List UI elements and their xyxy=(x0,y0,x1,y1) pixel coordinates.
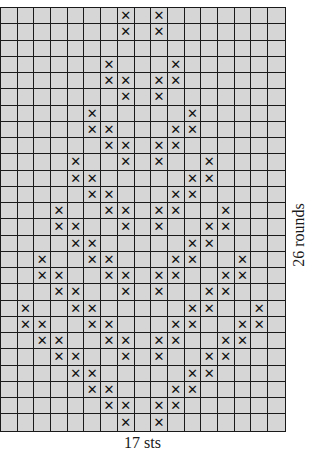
chart-cell xyxy=(18,171,35,187)
chart-cell xyxy=(151,301,168,317)
chart-cell xyxy=(168,301,185,317)
chart-cell: ✕ xyxy=(151,138,168,154)
x-stitch-icon: ✕ xyxy=(204,285,215,298)
chart-cell: ✕ xyxy=(201,284,218,300)
chart-cell xyxy=(218,24,235,40)
chart-cell: ✕ xyxy=(201,349,218,365)
x-stitch-icon: ✕ xyxy=(120,334,131,347)
x-stitch-icon: ✕ xyxy=(87,237,98,250)
chart-cell xyxy=(51,73,68,89)
x-stitch-icon: ✕ xyxy=(104,204,115,217)
chart-cell xyxy=(68,138,85,154)
chart-cell xyxy=(68,106,85,122)
x-stitch-icon: ✕ xyxy=(187,302,198,315)
chart-cell xyxy=(135,284,152,300)
chart-cell xyxy=(218,154,235,170)
chart-cell xyxy=(185,57,202,73)
chart-cell xyxy=(185,154,202,170)
chart-cell xyxy=(135,219,152,235)
x-stitch-icon: ✕ xyxy=(187,367,198,380)
chart-cell: ✕ xyxy=(34,252,51,268)
chart-cell xyxy=(101,24,118,40)
x-stitch-icon: ✕ xyxy=(20,318,31,331)
chart-cell xyxy=(151,236,168,252)
x-stitch-icon: ✕ xyxy=(170,383,181,396)
rounds-label-container: 26 rounds xyxy=(288,195,310,275)
x-stitch-icon: ✕ xyxy=(53,285,64,298)
chart-cell: ✕ xyxy=(185,317,202,333)
chart-cell xyxy=(235,106,252,122)
chart-cell xyxy=(118,366,135,382)
chart-cell: ✕ xyxy=(151,154,168,170)
x-stitch-icon: ✕ xyxy=(87,107,98,120)
chart-cell: ✕ xyxy=(101,333,118,349)
chart-cell xyxy=(1,268,18,284)
x-stitch-icon: ✕ xyxy=(170,204,181,217)
chart-cell xyxy=(268,138,285,154)
chart-cell xyxy=(51,187,68,203)
chart-cell xyxy=(185,398,202,414)
chart-cell xyxy=(135,317,152,333)
chart-cell xyxy=(218,236,235,252)
chart-cell xyxy=(68,382,85,398)
chart-cell xyxy=(185,219,202,235)
x-stitch-icon: ✕ xyxy=(104,269,115,282)
x-stitch-icon: ✕ xyxy=(104,399,115,412)
x-stitch-icon: ✕ xyxy=(204,155,215,168)
chart-cell xyxy=(34,349,51,365)
chart-cell xyxy=(101,366,118,382)
chart-cell xyxy=(68,252,85,268)
chart-cell xyxy=(151,171,168,187)
x-stitch-icon: ✕ xyxy=(170,334,181,347)
x-stitch-icon: ✕ xyxy=(237,253,248,266)
chart-cell xyxy=(18,382,35,398)
chart-cell: ✕ xyxy=(151,268,168,284)
stitch-chart-grid: ✕✕✕✕✕✕✕✕✕✕✕✕✕✕✕✕✕✕✕✕✕✕✕✕✕✕✕✕✕✕✕✕✕✕✕✕✕✕✕✕… xyxy=(0,7,286,432)
chart-cell xyxy=(168,154,185,170)
chart-cell xyxy=(18,219,35,235)
chart-cell xyxy=(118,236,135,252)
chart-cell xyxy=(201,122,218,138)
chart-cell xyxy=(218,89,235,105)
chart-cell xyxy=(34,106,51,122)
x-stitch-icon: ✕ xyxy=(104,123,115,136)
x-stitch-icon: ✕ xyxy=(154,334,165,347)
chart-cell: ✕ xyxy=(118,284,135,300)
x-stitch-icon: ✕ xyxy=(220,269,231,282)
x-stitch-icon: ✕ xyxy=(87,172,98,185)
chart-cell xyxy=(235,219,252,235)
chart-cell: ✕ xyxy=(185,171,202,187)
chart-cell xyxy=(268,398,285,414)
chart-cell: ✕ xyxy=(201,366,218,382)
x-stitch-icon: ✕ xyxy=(154,25,165,38)
chart-cell xyxy=(51,41,68,57)
chart-cell: ✕ xyxy=(151,398,168,414)
chart-cell xyxy=(218,366,235,382)
chart-cell xyxy=(268,89,285,105)
x-stitch-icon: ✕ xyxy=(170,139,181,152)
chart-cell: ✕ xyxy=(118,333,135,349)
chart-cell: ✕ xyxy=(51,268,68,284)
x-stitch-icon: ✕ xyxy=(120,269,131,282)
chart-cell xyxy=(185,138,202,154)
chart-cell xyxy=(151,187,168,203)
chart-cell xyxy=(168,284,185,300)
x-stitch-icon: ✕ xyxy=(237,334,248,347)
chart-cell xyxy=(251,349,268,365)
chart-cell xyxy=(235,366,252,382)
chart-cell: ✕ xyxy=(51,333,68,349)
stitches-label: 17 sts xyxy=(0,434,285,452)
chart-cell xyxy=(68,89,85,105)
x-stitch-icon: ✕ xyxy=(104,58,115,71)
chart-cell xyxy=(1,219,18,235)
chart-cell xyxy=(185,8,202,24)
chart-cell xyxy=(1,8,18,24)
chart-cell xyxy=(185,73,202,89)
chart-cell xyxy=(1,203,18,219)
chart-cell: ✕ xyxy=(118,203,135,219)
chart-cell xyxy=(118,171,135,187)
chart-cell xyxy=(18,73,35,89)
x-stitch-icon: ✕ xyxy=(104,383,115,396)
chart-cell xyxy=(118,41,135,57)
chart-cell: ✕ xyxy=(101,122,118,138)
